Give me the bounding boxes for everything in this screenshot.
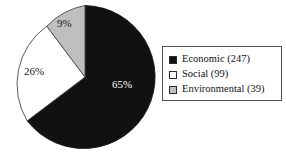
legend-swatch-social-icon xyxy=(169,71,177,79)
legend-item-environmental[interactable]: Environmental (39) xyxy=(169,82,275,97)
legend-swatch-economic-icon xyxy=(169,56,177,64)
pie-label-economic: 65% xyxy=(112,79,132,90)
legend-swatch-environmental-icon xyxy=(169,86,177,94)
pie-svg xyxy=(13,5,157,149)
legend-label-social: Social (99) xyxy=(182,69,228,80)
pie-chart-graphic xyxy=(13,5,157,149)
pie-label-environmental: 9% xyxy=(57,18,72,29)
legend-item-economic[interactable]: Economic (247) xyxy=(169,52,275,67)
pie-label-social: 26% xyxy=(24,66,44,77)
legend-item-social[interactable]: Social (99) xyxy=(169,67,275,82)
pie-chart-figure: 65% 26% 9% Economic (247) Social (99) En… xyxy=(0,0,286,155)
chart-legend: Economic (247) Social (99) Environmental… xyxy=(162,46,282,101)
legend-label-economic: Economic (247) xyxy=(182,54,250,65)
legend-label-environmental: Environmental (39) xyxy=(182,84,265,95)
